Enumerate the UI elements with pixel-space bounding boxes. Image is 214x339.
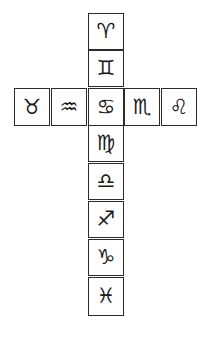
cell-capricorn: ♑ [88,239,124,276]
taurus-icon: ♉ [23,97,42,118]
cell-aquarius: ♒ [51,88,87,126]
capricorn-icon: ♑ [97,247,116,268]
cell-sagittarius: ♐ [88,201,124,238]
sagittarius-icon: ♐ [97,209,116,230]
pisces-icon: ♓ [97,286,116,307]
leo-icon: ♌ [170,97,189,118]
cell-gemini: ♊ [88,50,124,87]
cell-libra: ♎ [88,163,124,200]
aries-icon: ♈ [97,21,116,42]
cell-scorpio: ♏ [124,88,160,126]
gemini-icon: ♊ [97,58,116,79]
cell-leo: ♌ [161,88,197,126]
cell-pisces: ♓ [88,277,124,316]
cell-aries: ♈ [88,13,124,50]
cell-taurus: ♉ [14,88,50,126]
scorpio-icon: ♏ [133,97,152,118]
aquarius-icon: ♒ [60,97,79,118]
virgo-icon: ♍ [97,133,116,154]
cell-cancer: ♋ [88,88,124,126]
cancer-icon: ♋ [97,97,116,118]
cell-virgo: ♍ [88,125,124,162]
libra-icon: ♎ [97,171,116,192]
